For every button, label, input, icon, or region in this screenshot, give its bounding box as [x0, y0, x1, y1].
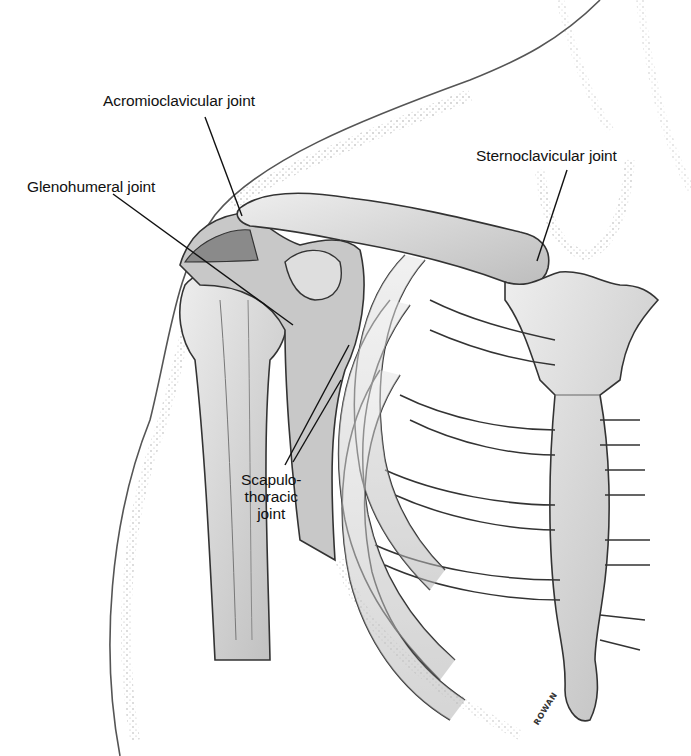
label-scapulothoracic-line-1: Scapulo- [241, 471, 301, 488]
label-acromioclavicular-joint: Acromioclavicular joint [103, 92, 255, 109]
shoulder-illustration [0, 0, 691, 756]
label-scapulothoracic-line-3: joint [241, 505, 301, 522]
label-sternoclavicular-joint: Sternoclavicular joint [476, 147, 617, 164]
label-glenohumeral-joint: Glenohumeral joint [27, 178, 155, 195]
humerus [180, 265, 288, 660]
sternum [505, 272, 658, 721]
label-scapulothoracic-joint: Scapulo- thoracic joint [241, 471, 301, 522]
label-scapulothoracic-line-2: thoracic [241, 488, 301, 505]
leader-acromioclavicular [205, 117, 242, 216]
